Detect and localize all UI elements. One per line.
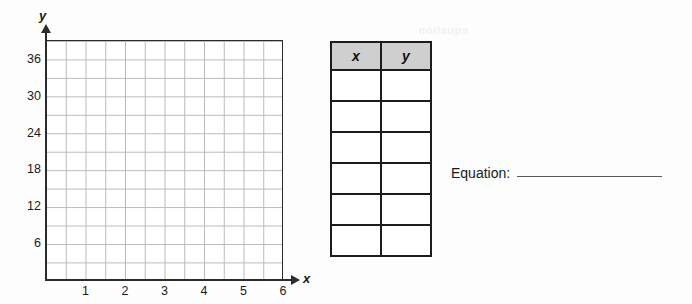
x-tick-label: 5: [232, 284, 256, 298]
table-header-x: x: [331, 42, 381, 70]
table-row[interactable]: [331, 70, 431, 101]
table-header-y: y: [381, 42, 431, 70]
y-tick-label: 36: [19, 52, 41, 66]
coordinate-grid[interactable]: y x 6 12 18 24 30 36 1 2 3 4 5 6: [0, 0, 320, 304]
x-tick-label: 1: [74, 284, 98, 298]
table-cell-y[interactable]: [381, 163, 431, 194]
table-row[interactable]: [331, 101, 431, 132]
y-tick-label: 24: [19, 126, 41, 140]
equation-prompt: Equation:: [451, 165, 662, 181]
equation-answer-blank[interactable]: [517, 176, 662, 177]
x-tick-label: 2: [113, 284, 137, 298]
table-cell-x[interactable]: [331, 163, 381, 194]
table-cell-y[interactable]: [381, 225, 431, 256]
table-cell-y[interactable]: [381, 70, 431, 101]
xy-value-table[interactable]: x y: [330, 41, 432, 257]
scan-bleedthrough-text: equation: [418, 24, 468, 36]
x-tick-label: 6: [271, 284, 295, 298]
y-tick-label: 18: [19, 162, 41, 176]
table-cell-x[interactable]: [331, 132, 381, 163]
y-axis-tick-labels: 6 12 18 24 30 36: [0, 0, 41, 304]
y-tick-label: 6: [19, 236, 41, 250]
table-cell-y[interactable]: [381, 132, 431, 163]
table-cell-x[interactable]: [331, 70, 381, 101]
table-row[interactable]: [331, 194, 431, 225]
table-row[interactable]: [331, 225, 431, 256]
table-cell-x[interactable]: [331, 225, 381, 256]
equation-label: Equation:: [451, 165, 510, 181]
worksheet-page: equation y x 6 12 18 24 30 36 1 2 3 4 5 …: [0, 0, 692, 304]
table-cell-y[interactable]: [381, 194, 431, 225]
table-cell-x[interactable]: [331, 194, 381, 225]
y-axis-line: [45, 32, 47, 281]
table-row[interactable]: [331, 163, 431, 194]
y-axis-arrow-icon: [41, 24, 51, 33]
table-header-row: x y: [331, 42, 431, 70]
table-cell-x[interactable]: [331, 101, 381, 132]
y-tick-label: 12: [19, 199, 41, 213]
x-tick-label: 4: [192, 284, 216, 298]
x-tick-label: 3: [153, 284, 177, 298]
x-axis-line: [45, 279, 293, 281]
table-row[interactable]: [331, 132, 431, 163]
grid-plot-area[interactable]: [46, 40, 283, 280]
table-cell-y[interactable]: [381, 101, 431, 132]
x-axis-label: x: [303, 271, 310, 286]
y-tick-label: 30: [19, 89, 41, 103]
